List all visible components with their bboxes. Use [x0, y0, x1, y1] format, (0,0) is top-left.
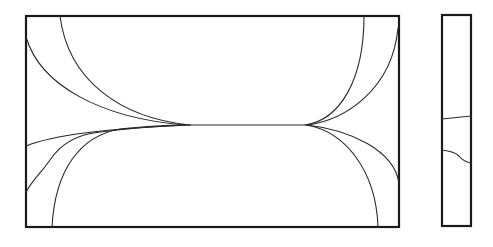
- lower-right-inner-curve: [307, 125, 378, 227]
- main-panel: [26, 16, 399, 227]
- side-panel-frame: [442, 15, 471, 226]
- side-line-upper-curve: [442, 116, 471, 119]
- upper-left-inner-curve: [60, 16, 190, 125]
- upper-left-outer-curve: [26, 37, 185, 125]
- lower-left-wavy-curve: [26, 125, 185, 192]
- side-line-lower-wavy-curve: [442, 150, 471, 163]
- upper-right-inner-curve: [305, 16, 364, 125]
- side-panel: [442, 15, 471, 226]
- upper-right-outer-curve: [307, 28, 398, 125]
- lower-left-top-curve: [26, 125, 190, 146]
- side-panel-curves: [442, 116, 471, 163]
- main-panel-frame: [26, 16, 399, 227]
- main-panel-curves: [26, 16, 399, 227]
- diagram-canvas: [0, 0, 493, 247]
